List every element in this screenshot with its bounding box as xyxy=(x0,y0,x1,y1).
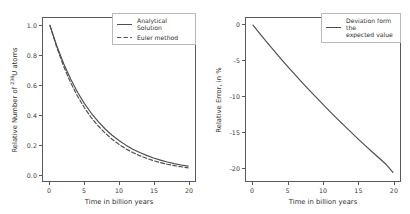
x-tick-label: 0 xyxy=(47,187,51,194)
legend-label-analytical: Analytical Solution xyxy=(137,17,191,31)
x-tick-label: 0 xyxy=(250,187,254,194)
x-tick xyxy=(49,182,50,185)
x-tick-label: 15 xyxy=(354,187,362,194)
error-y-axis-label: Relative Error, in % xyxy=(215,67,223,132)
x-tick xyxy=(119,182,120,185)
isotope-mass-number: 238 xyxy=(10,75,15,84)
y-tick xyxy=(242,96,245,97)
ylabel-suffix: atoms xyxy=(11,47,19,70)
x-tick xyxy=(358,182,359,185)
legend-label-euler: Euler method xyxy=(137,34,178,41)
x-tick-label: 20 xyxy=(185,187,193,194)
x-tick-label: 15 xyxy=(150,187,158,194)
y-tick-label: 1.0 xyxy=(20,21,37,28)
x-tick-label: 5 xyxy=(82,187,86,194)
solid-line-icon xyxy=(116,21,133,28)
y-tick-label: -10 xyxy=(223,92,240,99)
y-tick-label: -15 xyxy=(223,128,240,135)
figure: Analytical Solution Euler method Time in… xyxy=(0,0,410,214)
y-tick-label: -20 xyxy=(223,164,240,171)
x-tick xyxy=(189,182,190,185)
x-tick xyxy=(154,182,155,185)
error-curve-panel: Deviation form the expected value Time i… xyxy=(205,0,410,214)
x-tick xyxy=(84,182,85,185)
legend-label-deviation: Deviation form the expected value xyxy=(346,17,396,39)
y-tick xyxy=(39,85,42,86)
y-tick xyxy=(242,132,245,133)
x-tick-label: 10 xyxy=(115,187,123,194)
y-tick xyxy=(242,60,245,61)
y-tick xyxy=(242,24,245,25)
legend-entry-euler: Euler method xyxy=(116,34,191,41)
x-tick-label: 10 xyxy=(319,187,327,194)
y-tick-label: -5 xyxy=(223,57,240,64)
y-tick xyxy=(39,115,42,116)
ylabel-prefix: Relative Number of xyxy=(11,84,19,152)
y-tick xyxy=(39,55,42,56)
x-tick xyxy=(394,182,395,185)
decay-x-axis-label: Time in billion years xyxy=(85,198,153,206)
y-tick xyxy=(39,145,42,146)
y-tick-label: 0 xyxy=(223,21,240,28)
y-tick xyxy=(39,25,42,26)
y-tick-label: 0.2 xyxy=(20,141,37,148)
x-tick xyxy=(323,182,324,185)
solid-line-icon xyxy=(325,24,342,31)
y-tick-label: 0.0 xyxy=(20,171,37,178)
y-tick xyxy=(242,168,245,169)
legend-entry-deviation: Deviation form the expected value xyxy=(325,17,396,39)
isotope-symbol: U xyxy=(11,70,19,75)
decay-legend: Analytical Solution Euler method xyxy=(112,13,196,45)
error-x-axis-label: Time in billion years xyxy=(289,198,357,206)
x-tick-label: 5 xyxy=(285,187,289,194)
y-tick-label: 0.4 xyxy=(20,111,37,118)
dashed-line-icon xyxy=(116,34,133,41)
x-tick xyxy=(288,182,289,185)
y-tick-label: 0.8 xyxy=(20,51,37,58)
x-tick xyxy=(252,182,253,185)
y-tick xyxy=(39,175,42,176)
error-legend: Deviation form the expected value xyxy=(321,13,401,43)
x-tick-label: 20 xyxy=(390,187,398,194)
decay-y-axis-label: Relative Number of 238U atoms xyxy=(11,47,19,152)
y-tick-label: 0.6 xyxy=(20,81,37,88)
decay-curve-panel: Analytical Solution Euler method Time in… xyxy=(0,0,205,214)
legend-entry-analytical: Analytical Solution xyxy=(116,17,191,31)
